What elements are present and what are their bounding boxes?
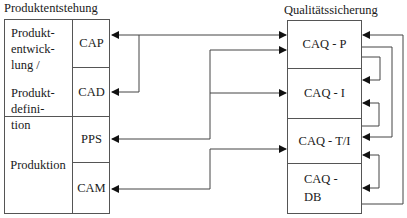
- connection-arrows: [0, 0, 407, 218]
- loop-ti-to-i: [362, 103, 379, 126]
- arrow-pps-caqp: [210, 50, 286, 139]
- loop-db-to-p: [362, 35, 403, 204]
- arrow-cam-caqti: [210, 149, 286, 189]
- arrow-to-cad: [112, 35, 139, 92]
- loop-ti-db: [363, 155, 379, 188]
- loop-p-to-i: [362, 57, 380, 80]
- loop-p-to-ti: [362, 47, 392, 137]
